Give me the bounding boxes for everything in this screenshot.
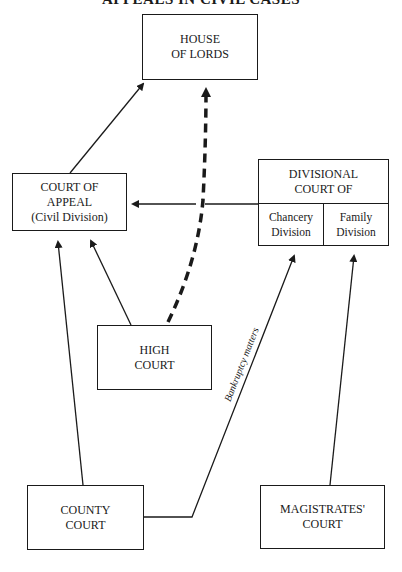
court-of-appeal-line2: APPEAL [31, 195, 107, 210]
edge-county-to-appeal [58, 242, 83, 485]
family-line2: Division [324, 225, 388, 240]
divisional-line2: COURT OF [259, 182, 388, 197]
high-court-line1: HIGH [135, 343, 175, 358]
node-court-of-appeal: COURT OF APPEAL (Civil Division) [12, 173, 127, 231]
node-family-division: Family Division [323, 204, 388, 245]
node-county-court: COUNTY COURT [27, 485, 144, 550]
node-high-court: HIGH COURT [97, 325, 212, 390]
court-of-appeal-line3: (Civil Division) [31, 210, 107, 225]
magistrates-line1: MAGISTRATES' [280, 502, 365, 517]
edge-high-to-appeal [91, 241, 131, 325]
court-of-appeal-line1: COURT OF [31, 180, 107, 195]
house-of-lords-line1: HOUSE [171, 32, 229, 47]
node-divisional-court: DIVISIONAL COURT OF Chancery Division Fa… [258, 159, 389, 246]
edge-appeal-to-lords [70, 84, 143, 173]
county-court-line2: COURT [61, 518, 111, 533]
chancery-line2: Division [259, 225, 323, 240]
chancery-line1: Chancery [259, 210, 323, 225]
divisional-line1: DIVISIONAL [259, 167, 388, 182]
node-magistrates-court: MAGISTRATES' COURT [260, 485, 385, 549]
edge-magistrates-to-family [330, 256, 354, 485]
divisional-court-header: DIVISIONAL COURT OF [259, 160, 388, 204]
node-chancery-division: Chancery Division [259, 204, 323, 245]
node-house-of-lords: HOUSE OF LORDS [142, 14, 258, 80]
magistrates-line2: COURT [280, 517, 365, 532]
high-court-line2: COURT [135, 358, 175, 373]
county-court-line1: COUNTY [61, 503, 111, 518]
house-of-lords-line2: OF LORDS [171, 47, 229, 62]
family-line1: Family [324, 210, 388, 225]
